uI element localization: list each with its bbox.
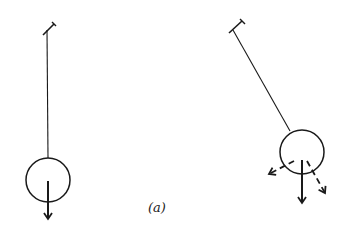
tangential-component-arrow xyxy=(269,161,294,174)
figure-caption: (a) xyxy=(148,200,166,215)
pivot-mark xyxy=(43,24,54,35)
string xyxy=(233,30,290,131)
displaced-pendulum xyxy=(229,19,325,203)
vertical-pendulum xyxy=(26,22,70,219)
radial-component-arrow xyxy=(307,161,325,193)
pendulum-diagram xyxy=(0,0,346,240)
string xyxy=(47,30,48,158)
pivot-mark xyxy=(229,21,242,33)
